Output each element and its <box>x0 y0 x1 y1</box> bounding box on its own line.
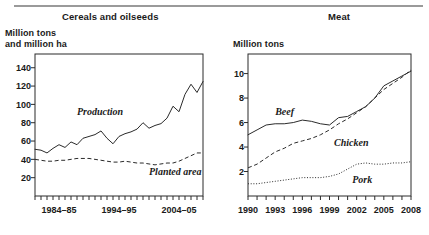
x-tick-label: 1990 <box>238 205 258 215</box>
y-tick-label: 60 <box>21 136 31 146</box>
data-series-right <box>248 70 411 184</box>
x-axis-ticks-left <box>35 196 203 200</box>
x-tick-label: 1993 <box>265 205 285 215</box>
chart-meat: 246810 BeefChickenPork 19901993199619992… <box>215 0 429 235</box>
series-annotation-chicken: Chicken <box>334 137 369 148</box>
y-axis-ticks-right: 246810 <box>234 69 248 177</box>
y-tick-label: 100 <box>16 100 31 110</box>
y-tick-label: 8 <box>239 93 244 103</box>
series-line-beef <box>248 71 411 135</box>
series-annotations-left: ProductionPlanted area <box>77 106 202 177</box>
y-axis-ticks-left: 20406080100120140 <box>16 63 35 183</box>
x-tick-label: 1984–85 <box>41 205 76 215</box>
y-tick-label: 6 <box>239 118 244 128</box>
y-tick-label: 40 <box>21 155 31 165</box>
x-tick-label: 2008 <box>401 205 421 215</box>
x-tick-label: 2002 <box>347 205 367 215</box>
x-axis-labels-right: 1990199319961999200220052008 <box>238 205 421 215</box>
figure-container: Cereals and oilseeds Meat Million tons a… <box>0 0 429 235</box>
series-line-planted-area <box>35 153 203 165</box>
x-tick-label: 2005 <box>374 205 394 215</box>
y-tick-label: 80 <box>21 118 31 128</box>
series-annotation-beef: Beef <box>274 106 296 117</box>
series-annotation-planted-area: Planted area <box>149 166 202 177</box>
series-annotation-production: Production <box>77 106 124 117</box>
x-tick-label: 1996 <box>292 205 312 215</box>
y-tick-label: 120 <box>16 81 31 91</box>
y-tick-label: 20 <box>21 173 31 183</box>
x-tick-label: 1994–95 <box>101 205 136 215</box>
series-annotation-pork: Pork <box>352 174 372 185</box>
chart-cereals-and-oilseeds: 20406080100120140 ProductionPlanted area… <box>0 0 215 235</box>
x-axis-labels-left: 1984–851994–952004–05 <box>41 205 196 215</box>
y-tick-label: 10 <box>234 69 244 79</box>
x-axis-ticks-right <box>248 196 411 200</box>
series-line-pork <box>248 162 411 184</box>
y-tick-label: 2 <box>239 167 244 177</box>
y-tick-label: 140 <box>16 63 31 73</box>
x-tick-label: 2004–05 <box>161 205 196 215</box>
y-tick-label: 4 <box>239 142 244 152</box>
data-series-left <box>35 81 203 164</box>
x-tick-label: 1999 <box>319 205 339 215</box>
